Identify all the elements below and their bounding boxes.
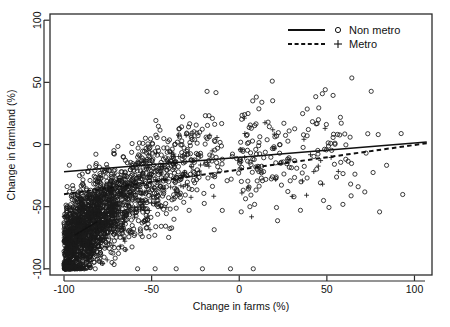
scatter-point-non-metro xyxy=(154,118,158,122)
scatter-point-non-metro xyxy=(167,235,171,239)
scatter-point-metro xyxy=(142,208,147,213)
scatter-point-non-metro xyxy=(350,76,354,80)
scatter-point-metro xyxy=(336,169,341,174)
scatter-point-non-metro xyxy=(338,115,342,119)
scatter-point-non-metro xyxy=(282,172,286,176)
scatter-point-non-metro xyxy=(215,160,219,164)
scatter-point-non-metro xyxy=(220,121,224,125)
x-tick-label: -50 xyxy=(144,283,159,295)
scatter-point-non-metro xyxy=(339,160,343,164)
scatter-point-non-metro xyxy=(129,218,133,222)
y-axis-title: Change in farmland (%) xyxy=(5,90,17,201)
scatter-point-non-metro xyxy=(239,210,243,214)
scatter-point-non-metro xyxy=(116,251,120,255)
scatter-point-non-metro xyxy=(270,79,274,83)
scatter-point-non-metro xyxy=(334,175,338,179)
scatter-point-non-metro xyxy=(116,144,120,148)
scatter-point-non-metro xyxy=(301,145,305,149)
scatter-point-non-metro xyxy=(93,267,97,271)
scatter-point-non-metro xyxy=(195,188,199,192)
x-axis-title: Change in farms (%) xyxy=(193,300,289,312)
scatter-point-non-metro xyxy=(286,189,290,193)
scatter-point-non-metro xyxy=(267,125,271,129)
scatter-point-non-metro xyxy=(274,161,278,165)
scatter-point-non-metro xyxy=(205,89,209,93)
scatter-point-non-metro xyxy=(216,165,220,169)
scatter-point-non-metro xyxy=(159,153,163,157)
scatter-point-non-metro xyxy=(228,267,232,271)
regression-line-non-metro xyxy=(64,142,427,172)
scatter-point-non-metro xyxy=(202,191,206,195)
scatter-point-non-metro xyxy=(205,123,209,127)
scatter-point-non-metro xyxy=(320,92,324,96)
y-tick-label: -50 xyxy=(31,199,43,214)
scatter-point-non-metro xyxy=(301,112,305,116)
x-tick-label: 100 xyxy=(406,283,424,295)
scatter-point-non-metro xyxy=(130,141,134,145)
scatter-point-non-metro xyxy=(293,127,297,131)
scatter-point-non-metro xyxy=(67,163,71,167)
scatter-point-non-metro xyxy=(210,116,214,120)
scatter-point-non-metro xyxy=(202,201,206,205)
scatter-point-metro xyxy=(316,164,321,169)
legend-label-non-metro: Non metro xyxy=(349,24,400,36)
scatter-point-non-metro xyxy=(279,183,283,187)
scatter-point-non-metro xyxy=(212,228,216,232)
scatter-point-non-metro xyxy=(314,95,318,99)
scatter-point-non-metro xyxy=(376,132,380,136)
scatter-point-non-metro xyxy=(181,115,185,119)
scatter-point-non-metro xyxy=(88,178,92,182)
scatter-point-non-metro xyxy=(143,136,147,140)
x-tick-label: 0 xyxy=(236,283,242,295)
scatter-point-non-metro xyxy=(183,193,187,197)
y-axis: -100-50050100 Change in farmland (%) xyxy=(5,11,50,279)
scatter-point-non-metro xyxy=(283,133,287,137)
scatter-point-metro xyxy=(308,152,313,157)
scatter-point-non-metro xyxy=(363,190,367,194)
scatter-point-metro xyxy=(242,131,247,136)
legend: Non metro Metro xyxy=(288,24,400,50)
scatter-point-non-metro xyxy=(94,152,98,156)
scatter-point-non-metro xyxy=(210,184,214,188)
scatter-point-non-metro xyxy=(246,179,250,183)
scatter-point-non-metro xyxy=(164,212,168,216)
scatter-point-metro xyxy=(189,195,194,200)
scatter-point-non-metro xyxy=(156,212,160,216)
scatter-point-non-metro xyxy=(251,99,255,103)
scatter-point-non-metro xyxy=(300,171,304,175)
scatter-point-non-metro xyxy=(263,150,267,154)
scatter-point-metro xyxy=(149,201,154,206)
scatter-point-non-metro xyxy=(87,165,91,169)
scatter-point-non-metro xyxy=(239,140,243,144)
scatter-point-non-metro xyxy=(172,217,176,221)
scatter-point-non-metro xyxy=(302,164,306,168)
scatter-point-non-metro xyxy=(401,192,405,196)
legend-item-non-metro[interactable]: Non metro xyxy=(288,24,400,36)
scatter-point-non-metro xyxy=(248,160,252,164)
scatter-point-non-metro xyxy=(200,267,204,271)
scatter-point-non-metro xyxy=(305,176,309,180)
scatter-point-non-metro xyxy=(237,171,241,175)
scatter-point-metro xyxy=(178,183,183,188)
scatter-plot-figure: -100-50050100 Change in farms (%) -100-5… xyxy=(0,0,450,327)
scatter-point-non-metro xyxy=(343,132,347,136)
scatter-point-non-metro xyxy=(156,124,160,128)
scatter-point-non-metro xyxy=(366,132,370,136)
scatter-point-non-metro xyxy=(154,225,158,229)
scatter-point-metro xyxy=(198,163,203,168)
scatter-point-non-metro xyxy=(248,205,252,209)
scatter-point-non-metro xyxy=(348,135,352,139)
scatter-point-non-metro xyxy=(306,127,310,131)
scatter-points-layer xyxy=(62,76,405,271)
scatter-point-non-metro xyxy=(136,267,140,271)
scatter-point-non-metro xyxy=(164,174,168,178)
legend-item-metro[interactable]: Metro xyxy=(288,38,377,50)
scatter-point-non-metro xyxy=(282,121,286,125)
scatter-point-non-metro xyxy=(168,207,172,211)
scatter-point-metro xyxy=(304,193,309,198)
scatter-point-non-metro xyxy=(349,194,353,198)
scatter-point-non-metro xyxy=(147,235,151,239)
scatter-point-non-metro xyxy=(257,107,261,111)
scatter-point-non-metro xyxy=(254,95,258,99)
scatter-point-non-metro xyxy=(176,165,180,169)
